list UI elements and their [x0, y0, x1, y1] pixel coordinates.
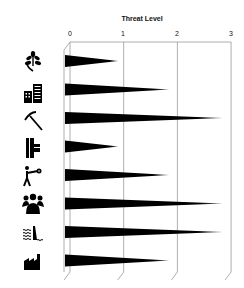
buildings-icon [22, 82, 44, 104]
bar-water-pollution [65, 226, 223, 238]
pipe-icon [22, 137, 44, 159]
hunter-icon [22, 165, 44, 187]
bars [65, 55, 223, 267]
leaf-icon [22, 50, 44, 72]
bar-human-population [65, 198, 223, 210]
bar-industry [65, 255, 169, 267]
bar-mining [65, 112, 223, 124]
bar-hunting [65, 169, 169, 181]
pickaxe-icon [22, 110, 44, 132]
factory-icon [22, 250, 44, 272]
people-group-icon [22, 193, 44, 215]
bar-urban-development [65, 84, 169, 96]
bar-pipelines [65, 141, 118, 153]
grid-lines [64, 42, 231, 280]
dam-water-icon [22, 222, 44, 244]
bar-plants [65, 55, 118, 67]
